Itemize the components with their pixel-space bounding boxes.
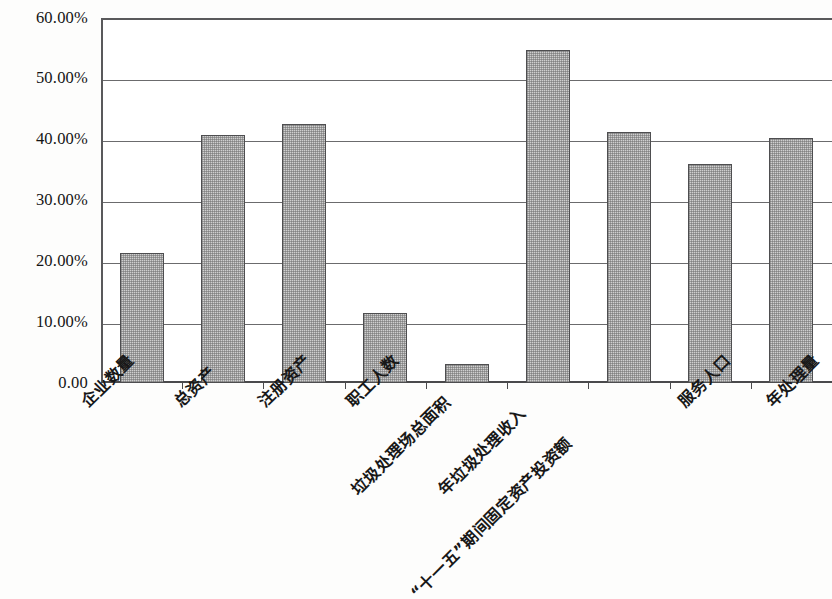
bar-series: [101, 18, 832, 383]
bar: [688, 164, 732, 383]
bar: [282, 124, 326, 383]
bar: [769, 138, 813, 383]
x-axis-tick: [670, 383, 671, 389]
x-axis-tick: [751, 383, 752, 389]
y-axis-tick-label: 10.00%: [36, 312, 88, 332]
bar: [526, 50, 570, 383]
y-axis-labels: 60.00% 50.00% 40.00% 30.00% 20.00% 10.00…: [0, 0, 96, 599]
x-axis-tick: [588, 383, 589, 389]
x-axis-tick: [507, 383, 508, 389]
y-axis-tick-label: 60.00%: [36, 8, 88, 28]
bar: [445, 364, 489, 383]
bar-chart: 60.00% 50.00% 40.00% 30.00% 20.00% 10.00…: [0, 0, 832, 599]
bar: [201, 135, 245, 383]
x-axis-tick: [426, 383, 427, 389]
bar: [607, 132, 651, 383]
y-axis-tick-label: 20.00%: [36, 251, 88, 271]
y-axis-tick-label: 50.00%: [36, 68, 88, 88]
y-axis-tick-label: 40.00%: [36, 129, 88, 149]
y-axis-tick-label: 30.00%: [36, 190, 88, 210]
